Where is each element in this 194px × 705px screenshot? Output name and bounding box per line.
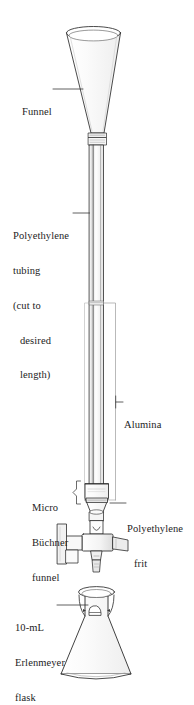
polyethylene-frit-graphic	[87, 498, 108, 503]
funnel-tube-joint	[89, 133, 107, 145]
label-flask-line1: 10-mL	[15, 622, 65, 634]
label-buchner-line2: Büchner	[32, 537, 68, 549]
label-frit-line2: frit	[127, 558, 183, 570]
label-buchner-line3: funnel	[32, 572, 68, 584]
label-polyethylene-tubing: Polyethylene tubing (cut to desired leng…	[13, 207, 69, 404]
label-alumina: Alumina	[124, 396, 161, 454]
label-micro-buchner-funnel: Micro Büchner funnel	[32, 479, 68, 607]
polyethylene-tubing-graphic	[90, 145, 104, 501]
micro-buchner-funnel-graphic	[85, 484, 109, 521]
label-tubing-line5: length)	[13, 369, 69, 381]
label-funnel-line1: Funnel	[22, 106, 52, 118]
erlenmeyer-flask-graphic	[61, 587, 131, 679]
label-alumina-line1: Alumina	[124, 419, 161, 431]
label-funnel: Funnel	[22, 83, 52, 141]
label-erlenmeyer-flask: 10-mL Erlenmeyer flask	[15, 599, 65, 705]
label-tubing-line3: (cut to	[13, 300, 69, 312]
label-flask-line2: Erlenmeyer	[15, 657, 65, 669]
funnel-graphic	[67, 27, 121, 134]
label-tubing-line4: desired	[13, 335, 69, 347]
label-frit-line1: Polyethylene	[127, 523, 183, 535]
label-tubing-line2: tubing	[13, 265, 69, 277]
label-polyethylene-frit: Polyethylene frit	[127, 500, 183, 593]
bracket-buchner	[73, 481, 81, 504]
label-flask-line3: flask	[15, 692, 65, 704]
label-buchner-line1: Micro	[32, 502, 68, 514]
label-tubing-line1: Polyethylene	[13, 230, 69, 242]
